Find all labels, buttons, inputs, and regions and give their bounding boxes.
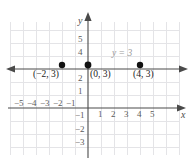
y-tick-2: 2 bbox=[78, 74, 83, 83]
data-point bbox=[59, 62, 65, 68]
x-axis-label: x bbox=[181, 110, 185, 120]
point-label-c: (4, 3) bbox=[133, 70, 154, 80]
grid-lines bbox=[10, 22, 179, 155]
graph-canvas bbox=[0, 0, 196, 164]
y-axis-label: y bbox=[78, 16, 82, 26]
x-tick-5: 5 bbox=[150, 110, 155, 119]
x-tick-2: 2 bbox=[111, 110, 116, 119]
y-tick-4: 4 bbox=[78, 48, 83, 57]
x-tick--1: −1 bbox=[66, 99, 76, 108]
x-tick--5: −5 bbox=[14, 99, 24, 108]
y-tick-1: 1 bbox=[78, 87, 83, 96]
x-tick-1: 1 bbox=[98, 110, 103, 119]
point-label-a: (−2, 3) bbox=[33, 70, 59, 80]
x-tick-4: 4 bbox=[137, 110, 142, 119]
y-axis bbox=[84, 12, 91, 158]
coordinate-plane-figure: y x y = 3 (−2, 3) (0, 3) (4, 3) −5 −4 −3… bbox=[0, 0, 196, 164]
data-point bbox=[85, 62, 92, 69]
x-tick--2: −2 bbox=[53, 99, 63, 108]
data-point bbox=[137, 62, 143, 68]
point-label-b: (0, 3) bbox=[90, 70, 111, 80]
x-tick--3: −3 bbox=[40, 99, 50, 108]
x-tick--4: −4 bbox=[27, 99, 37, 108]
y-tick-5: 5 bbox=[78, 35, 83, 44]
x-tick-3: 3 bbox=[124, 110, 129, 119]
y-tick--2: −2 bbox=[75, 125, 85, 134]
equation-label: y = 3 bbox=[112, 49, 132, 59]
y-tick--1: −1 bbox=[75, 111, 85, 120]
y-tick--3: −3 bbox=[75, 138, 85, 147]
